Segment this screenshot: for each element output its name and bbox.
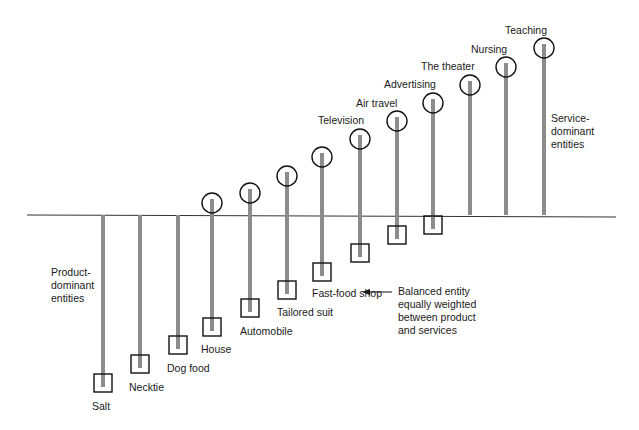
bar xyxy=(320,153,324,276)
entity-dog-food xyxy=(169,215,187,354)
entity-television xyxy=(350,129,370,262)
entity-label: Fast-food shop xyxy=(312,287,382,300)
bar xyxy=(431,99,435,229)
entity-label: Teaching xyxy=(505,24,547,37)
product-dominant-text: Product- dominant entities xyxy=(51,266,94,304)
entity-fast-food-shop xyxy=(312,147,332,281)
bar xyxy=(210,199,214,331)
entity-tailored-suit xyxy=(277,166,297,299)
bar xyxy=(542,44,546,215)
entity-label: Television xyxy=(318,114,364,127)
product-dominant-label: Product- dominant entities xyxy=(51,266,111,305)
entity-air-travel xyxy=(387,111,407,244)
service-dominant-text: Service- dominant entities xyxy=(551,112,594,150)
balanced-entity-label: Balanced entity equally weighted between… xyxy=(398,285,508,337)
entity-nursing xyxy=(496,57,516,215)
balanced-entity-text: Balanced entity equally weighted between… xyxy=(398,285,476,336)
entity-label: Advertising xyxy=(384,78,436,91)
entity-label: Salt xyxy=(92,400,110,413)
bar xyxy=(468,81,472,215)
service-dominant-label: Service- dominant entities xyxy=(551,112,621,151)
entity-label: House xyxy=(201,343,231,356)
entity-label: The theater xyxy=(421,60,475,73)
bar xyxy=(358,135,362,257)
entity-necktie xyxy=(131,215,149,373)
entity-house xyxy=(202,193,222,336)
entity-automobile xyxy=(240,183,260,317)
bar xyxy=(176,215,180,349)
entity-the-theater xyxy=(460,75,480,215)
product-service-continuum-diagram xyxy=(0,0,639,430)
entity-label: Dog food xyxy=(167,362,210,375)
entity-label: Air travel xyxy=(356,97,397,110)
entity-label: Tailored suit xyxy=(277,306,333,319)
entity-advertising xyxy=(423,93,443,234)
bar xyxy=(138,215,142,368)
entity-label: Automobile xyxy=(240,325,293,338)
entity-label: Nursing xyxy=(471,43,507,56)
bar xyxy=(395,117,399,239)
bar xyxy=(248,189,252,312)
bar xyxy=(285,172,289,294)
bar xyxy=(504,63,508,215)
entity-label: Necktie xyxy=(129,381,164,394)
